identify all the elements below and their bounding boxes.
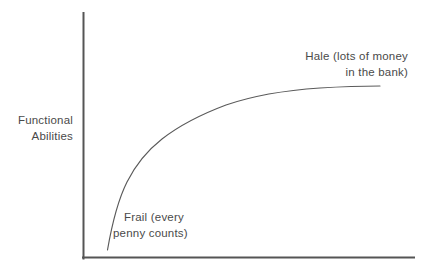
y-axis-label-line-1: Functional — [18, 114, 73, 126]
annotation-hale-line-1: Hale (lots of money — [305, 50, 408, 62]
annotation-hale-line-2: in the bank) — [346, 66, 409, 78]
annotation-frail-line-2: penny counts) — [113, 227, 188, 239]
functional-abilities-chart: Functional Abilities Frail (every penny … — [0, 0, 422, 272]
annotation-frail-line-1: Frail (every — [124, 211, 184, 223]
y-axis-label-line-2: Abilities — [32, 130, 73, 142]
